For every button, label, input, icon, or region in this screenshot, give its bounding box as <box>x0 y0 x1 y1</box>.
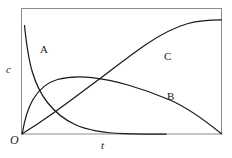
plot-canvas <box>0 0 232 158</box>
concentration-time-figure: c t O A B C <box>0 0 232 158</box>
curve-label-c: C <box>164 51 171 62</box>
curve-label-b: B <box>167 91 174 102</box>
curve-label-a: A <box>40 44 48 55</box>
curve-b-path <box>22 77 221 134</box>
curve-c-path <box>22 20 221 134</box>
x-axis-label: t <box>101 140 104 151</box>
y-axis-label: c <box>6 64 11 75</box>
plot-frame <box>22 9 222 135</box>
origin-label: O <box>10 134 19 146</box>
